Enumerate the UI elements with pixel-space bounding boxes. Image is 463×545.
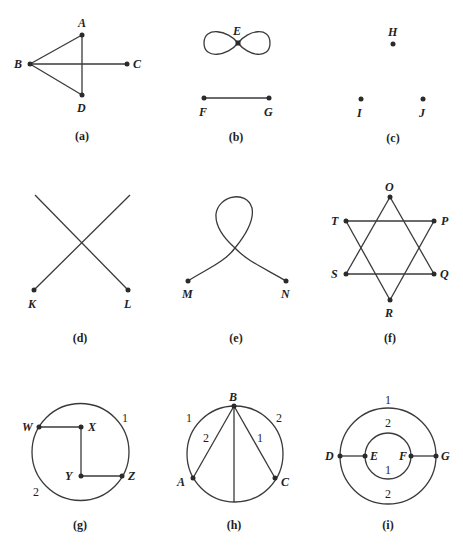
vertex-label-F: F: [198, 105, 207, 119]
vertex-label-B: B: [13, 57, 22, 71]
vertex-label-T: T: [331, 214, 339, 228]
edge-label-chord-BC: 1: [257, 431, 263, 445]
vertex-W: [37, 425, 42, 430]
vertex-A: [191, 476, 196, 481]
vertex-label-R: R: [384, 306, 393, 320]
caption-i: (i): [382, 518, 393, 532]
vertex-G: [267, 96, 272, 101]
vertex-S: [344, 272, 349, 277]
caption-b: (b): [229, 130, 244, 144]
vertex-label-Y: Y: [65, 469, 74, 483]
vertex-N: [284, 279, 289, 284]
vertex-label-Q: Q: [440, 267, 449, 281]
vertex-K: [32, 288, 37, 293]
edge-OS: [346, 197, 390, 274]
vertex-label-J: J: [418, 106, 426, 120]
vertex-label-N: N: [280, 287, 291, 301]
vertex-G: [434, 454, 439, 459]
vertex-label-Z: Z: [127, 469, 136, 483]
vertex-D: [338, 454, 343, 459]
caption-e: (e): [229, 331, 242, 345]
vertex-F: [202, 96, 207, 101]
vertex-label-H: H: [387, 25, 398, 39]
vertex-label-O: O: [385, 180, 394, 194]
vertex-H: [391, 42, 396, 47]
panel-g: W X Y Z 1 2 (g): [22, 404, 136, 533]
edge-label-arc-2: 2: [33, 485, 39, 499]
edge-label-inner-top: 2: [385, 416, 391, 430]
vertex-label-F: F: [398, 449, 407, 463]
caption-c: (c): [386, 131, 399, 145]
vertex-label-X: X: [87, 420, 97, 434]
edge-BD: [30, 64, 82, 95]
panel-a: A B C D (a): [13, 16, 142, 143]
caption-d: (d): [73, 331, 88, 345]
vertex-label-D: D: [76, 101, 86, 115]
vertex-label-C: C: [281, 475, 290, 489]
vertex-label-S: S: [331, 267, 338, 281]
panel-c: H I J (c): [356, 25, 426, 145]
edge-RT: [346, 221, 390, 300]
edge-BA: [193, 406, 234, 478]
edge-BC: [234, 406, 275, 478]
vertex-label-A: A: [77, 16, 86, 30]
edge-label-chord-BA: 2: [203, 431, 209, 445]
vertex-label-M: M: [181, 287, 193, 301]
caption-h: (h): [227, 518, 242, 532]
vertex-M: [186, 279, 191, 284]
edge-label-arc-left: 1: [186, 411, 192, 425]
vertex-Z: [120, 474, 125, 479]
panel-i: D E F G 1 2 1 2 (i): [324, 393, 450, 532]
vertex-Y: [79, 474, 84, 479]
panel-h: B A C 1 2 2 1 (h): [176, 390, 290, 532]
edge-label-arc-1: 1: [122, 411, 128, 425]
vertex-I: [359, 97, 364, 102]
vertex-C: [125, 62, 130, 67]
edge-label-inner-bottom: 1: [385, 463, 391, 477]
vertex-A: [80, 33, 85, 38]
graph-figure: A B C D (a) E F G (b) H I J (c) K L (d): [0, 0, 463, 545]
panel-b: E F G (b): [198, 24, 273, 144]
edge-circle: [187, 406, 283, 502]
vertex-label-D: D: [324, 449, 334, 463]
vertex-E: [236, 41, 241, 46]
edge-PR: [390, 221, 434, 300]
vertex-O: [388, 195, 393, 200]
vertex-label-B: B: [228, 390, 237, 404]
vertex-Q: [432, 272, 437, 277]
vertex-label-E: E: [232, 24, 241, 38]
edge-BA: [30, 35, 82, 64]
edge-label-outer-top: 1: [385, 393, 391, 407]
vertex-label-K: K: [27, 297, 37, 311]
vertex-J: [421, 97, 426, 102]
caption-a: (a): [75, 129, 89, 143]
vertex-label-P: P: [441, 214, 449, 228]
vertex-C: [273, 476, 278, 481]
edge-QO: [390, 197, 434, 274]
vertex-E: [363, 454, 368, 459]
panel-e: M N (e): [181, 197, 291, 345]
vertex-L: [126, 288, 131, 293]
vertex-label-C: C: [133, 57, 142, 71]
vertex-label-E: E: [369, 449, 378, 463]
vertex-label-W: W: [22, 420, 34, 434]
edge-MN-loop: [188, 197, 286, 281]
caption-f: (f): [384, 331, 396, 345]
vertex-P: [432, 219, 437, 224]
edge-label-outer-bottom: 2: [385, 487, 391, 501]
vertex-label-G: G: [441, 449, 450, 463]
vertex-label-I: I: [356, 106, 363, 120]
edge-label-arc-right: 2: [276, 411, 282, 425]
vertex-label-A: A: [176, 475, 185, 489]
vertex-D: [80, 93, 85, 98]
vertex-label-L: L: [123, 297, 131, 311]
panel-f: O P Q R S T (f): [331, 180, 449, 345]
vertex-F: [409, 454, 414, 459]
vertex-B: [28, 62, 33, 67]
caption-g: (g): [73, 518, 87, 532]
vertex-B: [232, 404, 237, 409]
vertex-R: [388, 298, 393, 303]
vertex-label-G: G: [264, 105, 273, 119]
panel-d: K L (d): [27, 195, 131, 345]
vertex-T: [344, 219, 349, 224]
